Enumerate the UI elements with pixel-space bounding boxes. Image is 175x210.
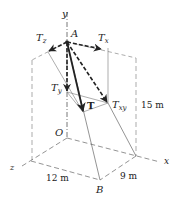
x-axis-line xyxy=(67,138,160,162)
z-length-dimension-label: 12 m xyxy=(46,174,69,183)
arrow-Tx xyxy=(67,42,101,49)
point-A-marker xyxy=(65,40,69,44)
arrow-T xyxy=(67,42,83,111)
box-top-right-edge xyxy=(67,42,136,58)
height-dimension-label: 15 m xyxy=(141,101,164,110)
x-length-dimension-label: 9 m xyxy=(120,172,137,181)
x-axis-label: x xyxy=(164,157,169,166)
force-component-diagram: y A Tz Tx Ty T Txy 15 m O x z 12 m 9 m B xyxy=(0,0,175,210)
point-A-label: A xyxy=(71,29,78,39)
Tx-label: Tx xyxy=(98,33,109,43)
Ty-label: Ty xyxy=(51,83,62,93)
T-label: T xyxy=(87,101,94,111)
point-B-label: B xyxy=(96,185,103,195)
z-axis-label: z xyxy=(10,164,14,172)
Txy-label: Txy xyxy=(112,100,127,110)
arrow-Txy xyxy=(67,42,107,102)
z-axis-line xyxy=(22,138,67,166)
y-axis-label: y xyxy=(62,9,68,19)
point-O-label: O xyxy=(55,128,63,138)
Tz-label: Tz xyxy=(36,33,46,43)
